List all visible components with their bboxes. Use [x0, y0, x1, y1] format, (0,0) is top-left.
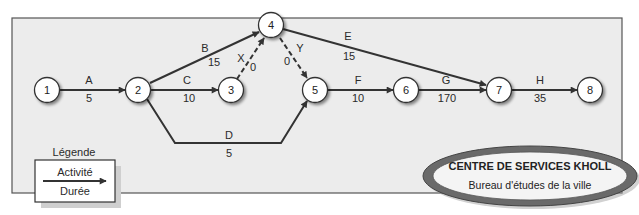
activity-a-name: A	[85, 74, 93, 86]
activity-e-name: E	[344, 30, 351, 42]
activity-g-name: G	[442, 74, 451, 86]
activity-x-name: X	[237, 52, 245, 64]
legend-activity-label: Activité	[57, 166, 92, 178]
node-2-label: 2	[135, 84, 141, 96]
node-7-label: 7	[496, 84, 502, 96]
activity-e-duration: 15	[343, 50, 355, 62]
node-1-label: 1	[44, 84, 50, 96]
activity-f-name: F	[355, 74, 362, 86]
title-badge: CENTRE DE SERVICES KHOLL Bureau d'études…	[423, 146, 639, 209]
activity-b-name: B	[201, 42, 208, 54]
legend-title: Légende	[53, 146, 96, 158]
node-6-label: 6	[403, 84, 409, 96]
activity-c-duration: 10	[183, 92, 195, 104]
legend-duration-label: Durée	[60, 185, 90, 197]
node-4-label: 4	[268, 19, 274, 31]
node-8: 8	[578, 78, 603, 103]
node-1: 1	[35, 78, 60, 103]
node-3-label: 3	[228, 84, 234, 96]
node-5-label: 5	[312, 84, 318, 96]
node-5: 5	[303, 78, 328, 103]
node-4: 4	[259, 13, 284, 38]
activity-h-duration: 35	[534, 92, 546, 104]
node-6: 6	[394, 78, 419, 103]
activity-d-duration: 5	[226, 147, 232, 159]
activity-h-name: H	[536, 74, 544, 86]
node-8-label: 8	[587, 84, 593, 96]
activity-c-name: C	[183, 74, 191, 86]
activity-a-duration: 5	[86, 92, 92, 104]
activity-b-duration: 15	[208, 56, 220, 68]
activity-x-duration: 0	[250, 61, 256, 73]
title-badge-subheading: Bureau d'études de la ville	[469, 179, 592, 191]
activity-y-duration: 0	[284, 55, 290, 67]
node-7: 7	[487, 78, 512, 103]
node-2: 2	[126, 78, 151, 103]
activity-g-duration: 170	[438, 92, 456, 104]
activity-d-name: D	[225, 129, 233, 141]
activity-f-duration: 10	[352, 92, 364, 104]
node-3: 3	[219, 78, 244, 103]
activity-y-name: Y	[296, 42, 304, 54]
title-badge-heading: CENTRE DE SERVICES KHOLL	[449, 160, 612, 172]
network-diagram: A 5 B 15 C 10 D 5 X 0 Y 0 E 15 F 10 G 17…	[0, 0, 639, 215]
